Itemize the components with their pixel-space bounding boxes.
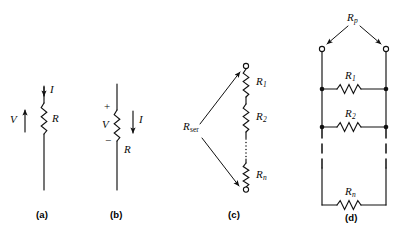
panel-caption-d: (d) [345, 213, 358, 223]
panel-c-rn-symbol: R [256, 168, 263, 180]
figure-root: I V R (a) + V − I R (b) Rser R1 R2 Rn (c… [0, 0, 400, 233]
panel-d-resistor-n [337, 201, 361, 210]
panel-c-leader-arrow-top [200, 72, 240, 124]
panel-c-resistor-1-label: R1 [256, 76, 267, 89]
panel-a-resistor-zigzag [41, 103, 47, 134]
panel-c-resistor-n [243, 163, 249, 187]
panel-d-equivalent-symbol: R [347, 11, 354, 23]
panel-b-minus-sign: − [105, 135, 111, 146]
panel-d-r1-symbol: R [345, 69, 352, 81]
panel-d-resistor-2 [337, 123, 361, 132]
panel-caption-b: (b) [110, 210, 123, 220]
panel-d-rn-symbol: R [345, 185, 352, 197]
panel-c-r1-subscript: 1 [263, 80, 267, 89]
panel-c-equivalent-symbol: R [183, 120, 190, 132]
panel-c-equivalent-label: Rser [183, 121, 199, 134]
panel-d-equivalent-label: Rp [347, 12, 358, 25]
panel-d-leader-arrow-right [360, 26, 381, 44]
panel-d-r2-symbol: R [345, 107, 352, 119]
panel-d-leader-arrow-left [327, 26, 348, 44]
panel-a-circuit [25, 86, 47, 190]
panel-c-bottom-terminal [243, 187, 248, 192]
panel-a-voltage-label: V [10, 114, 17, 125]
panel-d-rn-subscript: n [352, 190, 356, 199]
panel-c-r2-subscript: 2 [263, 115, 267, 124]
panel-d-equivalent-subscript: p [354, 16, 358, 25]
panel-caption-c: (c) [228, 210, 240, 220]
panel-d-r1-subscript: 1 [352, 74, 356, 83]
panel-c-resistor-1 [243, 69, 249, 97]
panel-c-equivalent-subscript: ser [190, 125, 199, 134]
panel-d-r2-subscript: 2 [352, 112, 356, 121]
panel-c-leader-arrow-bottom [202, 138, 239, 186]
panel-b-resistor-zigzag [114, 110, 120, 141]
panel-b-plus-sign: + [104, 101, 110, 112]
circuit-diagram-canvas [0, 0, 400, 233]
panel-b-voltage-label: V [102, 119, 109, 130]
panel-c-r1-symbol: R [256, 75, 263, 87]
panel-d-resistor-n-label: Rn [345, 186, 356, 199]
panel-d-left-terminal [319, 46, 324, 51]
panel-c-resistor-2 [243, 104, 249, 132]
panel-b-current-label: I [139, 114, 143, 125]
panel-c-top-terminal [243, 63, 248, 68]
panel-a-resistor-label: R [52, 113, 59, 124]
panel-d-resistor-1-label: R1 [345, 70, 356, 83]
panel-c-resistor-2-label: R2 [256, 111, 267, 124]
panel-d-resistor-1 [337, 85, 361, 94]
panel-caption-a: (a) [36, 210, 48, 220]
panel-c-r2-symbol: R [256, 110, 263, 122]
panel-c-rn-subscript: n [263, 173, 267, 182]
panel-c-circuit [200, 63, 249, 192]
panel-c-resistor-n-label: Rn [256, 169, 267, 182]
panel-d-resistor-2-label: R2 [345, 108, 356, 121]
panel-b-circuit [114, 84, 133, 190]
panel-a-current-label: I [50, 84, 54, 95]
panel-d-right-terminal [383, 46, 388, 51]
panel-b-resistor-label: R [124, 144, 131, 155]
